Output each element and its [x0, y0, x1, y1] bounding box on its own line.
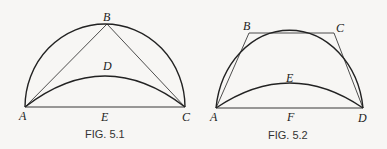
label-b: B [103, 10, 111, 24]
label-f: F [286, 110, 295, 124]
label-a: A [209, 110, 218, 124]
label-d: D [102, 59, 112, 73]
label-a: A [18, 109, 27, 123]
inner-arc-aed [216, 83, 363, 108]
inner-arc-adc [25, 76, 185, 107]
chord-cd [334, 33, 363, 108]
label-b: B [243, 19, 251, 33]
label-e: E [285, 71, 294, 85]
label-e: E [100, 110, 109, 124]
label-c: C [336, 21, 345, 35]
label-c: C [182, 110, 191, 124]
chord-ab [25, 24, 107, 107]
caption-fig-5-2: FIG. 5.2 [268, 129, 308, 141]
figure-5-2 [216, 30, 363, 108]
semicircle-arc [216, 30, 363, 108]
figures-canvas: B D A E C FIG. 5.1 B C E A F D FIG. 5.2 [0, 0, 387, 149]
label-d: D [357, 111, 367, 125]
caption-fig-5-1: FIG. 5.1 [85, 128, 125, 140]
chord-ab [216, 33, 249, 108]
